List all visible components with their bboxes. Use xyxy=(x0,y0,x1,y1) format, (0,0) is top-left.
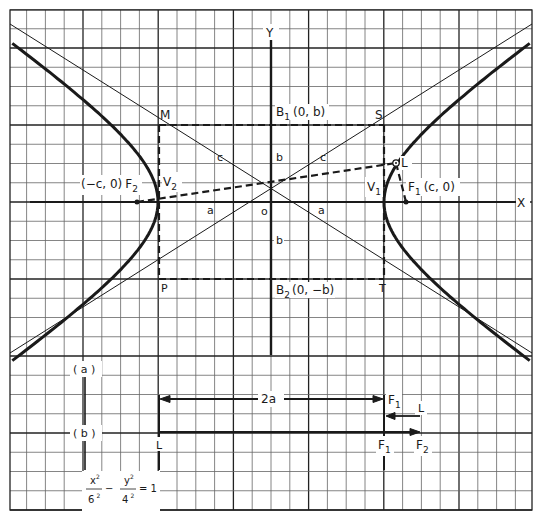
row-b-L-label: L xyxy=(156,439,163,452)
point-S-label: S xyxy=(375,108,383,122)
point-P-label: P xyxy=(161,282,168,295)
segment-b-top: b xyxy=(276,151,283,164)
construction-step-a-label: ( a ) xyxy=(73,363,95,376)
segment-c-left: c xyxy=(217,151,223,164)
segment-a-left: a xyxy=(207,204,214,217)
hyperbola-diagram: Y X o M S P T B1(0, b) B2(0, −b) V2 V1 (… xyxy=(0,0,542,521)
point-T-label: T xyxy=(378,282,386,295)
segment-b-bottom: b xyxy=(276,234,283,247)
focus-F2-dot xyxy=(135,200,140,205)
segment-a-right: a xyxy=(318,204,325,217)
construction-step-b-label: ( b ) xyxy=(73,427,96,440)
x-axis-label: X xyxy=(517,196,525,210)
focus-F1-dot xyxy=(404,200,409,205)
point-M-label: M xyxy=(160,108,170,122)
two-a-label: 2a xyxy=(261,392,276,406)
origin-label: o xyxy=(261,205,268,218)
row-a-L-label: L xyxy=(418,402,425,415)
svg-text:−: − xyxy=(105,483,113,494)
segment-c-right: c xyxy=(320,151,326,164)
y-axis-label: Y xyxy=(265,26,274,40)
point-L-label: L xyxy=(401,156,408,170)
svg-text:= 1: = 1 xyxy=(139,483,157,494)
